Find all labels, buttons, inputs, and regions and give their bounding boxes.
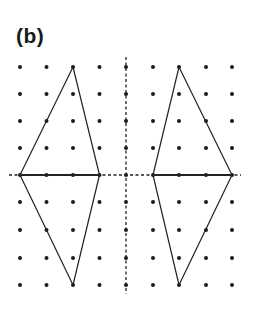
grid-dot	[204, 283, 208, 287]
grid-dot	[151, 92, 155, 96]
grid-dot	[151, 200, 155, 204]
grid-dot	[230, 92, 234, 96]
grid-dot	[230, 256, 234, 260]
grid-dot	[18, 283, 22, 287]
grid-dot	[151, 283, 155, 287]
grid-dot	[71, 256, 75, 260]
grid-dot	[71, 228, 75, 232]
grid-dot	[45, 200, 49, 204]
grid-dot	[151, 65, 155, 69]
grid-dot	[230, 65, 234, 69]
grid-dot	[204, 200, 208, 204]
grid-dot	[230, 283, 234, 287]
grid-dot	[98, 119, 102, 123]
grid-dot	[204, 65, 208, 69]
grid-dot	[18, 228, 22, 232]
grid-dot	[204, 92, 208, 96]
grid-dot	[177, 200, 181, 204]
grid-dot	[45, 256, 49, 260]
grid-dot	[204, 146, 208, 150]
grid-dot	[71, 200, 75, 204]
grid-dot	[18, 200, 22, 204]
grid-dot	[45, 92, 49, 96]
grid-dot	[45, 146, 49, 150]
grid-dot	[177, 256, 181, 260]
grid-dot	[71, 146, 75, 150]
grid-dot	[230, 200, 234, 204]
grid-dot	[45, 65, 49, 69]
grid-dot	[18, 119, 22, 123]
grid-dot	[98, 65, 102, 69]
grid-dot	[151, 256, 155, 260]
grid-dot	[18, 146, 22, 150]
grid-dot	[18, 256, 22, 260]
grid-dot	[151, 228, 155, 232]
grid-dot	[177, 146, 181, 150]
grid-dot	[151, 146, 155, 150]
reflection-diagram	[0, 0, 263, 310]
grid-dot	[151, 119, 155, 123]
grid-dot	[98, 92, 102, 96]
grid-dot	[18, 92, 22, 96]
grid-dot	[230, 228, 234, 232]
grid-dot	[98, 256, 102, 260]
grid-dot	[18, 65, 22, 69]
grid-dot	[71, 92, 75, 96]
grid-dot	[98, 146, 102, 150]
grid-dot	[177, 92, 181, 96]
grid-dot	[230, 119, 234, 123]
grid-dot	[45, 283, 49, 287]
grid-dot	[71, 119, 75, 123]
grid-dot	[204, 256, 208, 260]
grid-dot	[177, 228, 181, 232]
grid-dot	[98, 283, 102, 287]
grid-dot	[98, 200, 102, 204]
grid-dot	[177, 119, 181, 123]
grid-dot	[98, 228, 102, 232]
grid-dot	[230, 146, 234, 150]
